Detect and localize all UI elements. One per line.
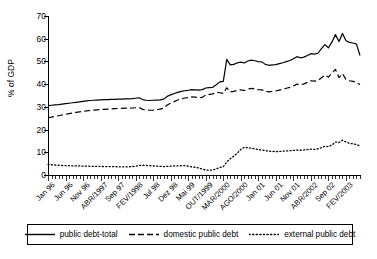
legend-swatch-dashed xyxy=(129,231,159,238)
legend-label-domestic: domestic public debt xyxy=(164,230,239,239)
debt-chart: % of GDP 010203040506070 Jan 96Jun 96Nov… xyxy=(0,0,377,259)
chart-legend: public debt-total domestic public debt e… xyxy=(27,224,353,245)
legend-item-total: public debt-total xyxy=(25,230,118,239)
series-line-dashed xyxy=(48,69,360,117)
legend-item-domestic: domestic public debt xyxy=(129,230,239,239)
legend-label-total: public debt-total xyxy=(60,230,118,239)
legend-swatch-dotted xyxy=(249,231,279,238)
legend-label-external: external public debt xyxy=(284,230,355,239)
legend-swatch-solid xyxy=(25,231,55,238)
series-plot xyxy=(0,0,377,259)
series-line-solid xyxy=(48,33,360,105)
series-line-dotted xyxy=(48,140,360,170)
legend-item-external: external public debt xyxy=(249,230,355,239)
